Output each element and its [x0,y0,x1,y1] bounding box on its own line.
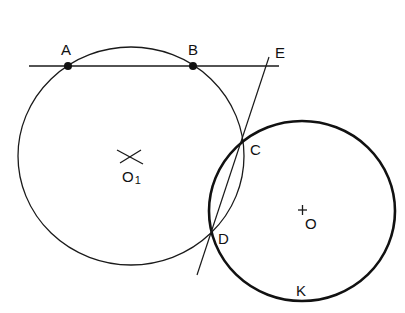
line-ed [197,57,269,275]
label-o1: O1 [122,168,141,186]
label-o1-main: O [122,168,134,185]
geometry-diagram: A B E C D O1 O K [0,0,405,313]
label-c: C [250,141,261,158]
point-a-dot [64,62,72,70]
label-o: O [305,215,317,232]
center-o1-cross-icon [117,150,143,164]
label-a: A [61,41,71,58]
label-k: K [296,282,306,299]
point-b-dot [189,62,197,70]
center-o-plus-icon [298,205,307,215]
label-e: E [275,44,285,61]
label-o1-subscript: 1 [135,174,141,186]
label-d: D [218,230,229,247]
label-b: B [188,41,198,58]
